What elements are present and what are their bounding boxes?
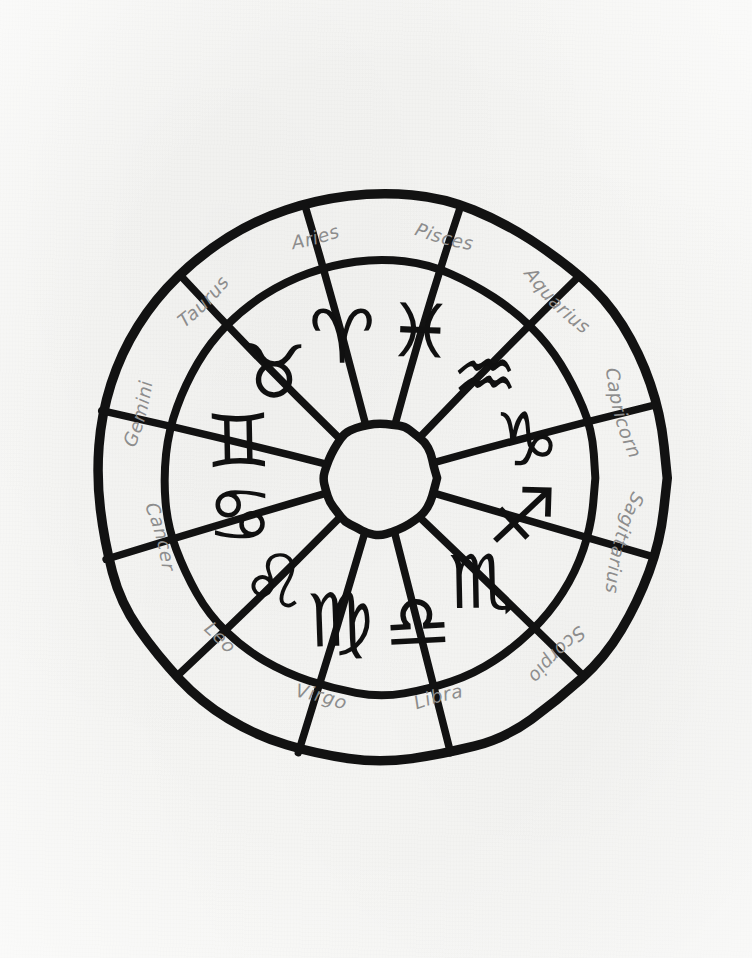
zodiac-glyph-capricorn: ♑ (493, 396, 561, 483)
zodiac-label-text-aries: Aries (289, 220, 342, 253)
spoke-group (102, 204, 655, 753)
zodiac-glyph-aries: ♈ (309, 294, 375, 380)
zodiac-glyph-libra: ♎ (382, 577, 453, 666)
zodiac-wheel: ♓♒♑♐♏♎♍♌♋♊♉♈ PiscesAquariusCapricornSagi… (0, 0, 752, 958)
zodiac-glyph-pisces: ♓ (386, 287, 455, 375)
glyph-group: ♓♒♑♐♏♎♍♌♋♊♉♈ (205, 287, 561, 666)
zodiac-label-aries: Aries (289, 220, 342, 253)
wheel-geometry (98, 194, 667, 761)
paper-page: ♓♒♑♐♏♎♍♌♋♊♉♈ PiscesAquariusCapricornSagi… (0, 0, 752, 958)
zodiac-glyph-virgo: ♍ (306, 576, 375, 664)
zodiac-glyph-scorpio: ♏ (448, 538, 516, 625)
zodiac-glyph-taurus: ♉ (240, 328, 308, 415)
